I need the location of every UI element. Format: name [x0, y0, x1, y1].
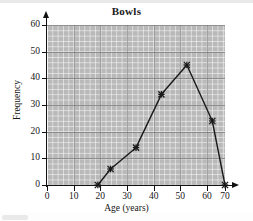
x-axis-arrow-icon — [232, 182, 239, 188]
y-tick-label-10: 10 — [14, 152, 40, 162]
gridline-x-20 — [100, 25, 101, 185]
y-axis-arrow-icon — [43, 11, 49, 18]
x-tick-label-40: 40 — [142, 191, 166, 201]
x-axis-title: Age (years) — [0, 203, 253, 213]
y-tick-60 — [42, 25, 47, 26]
y-tick-50 — [42, 52, 47, 53]
gridline-x-30 — [127, 25, 128, 185]
y-tick-40 — [42, 78, 47, 79]
y-axis-title: Frequency — [12, 55, 22, 145]
x-tick-label-20: 20 — [88, 191, 112, 201]
x-tick-label-10: 10 — [62, 191, 86, 201]
gridline-x-40 — [154, 25, 155, 185]
x-tick-label-30: 30 — [115, 191, 139, 201]
gridline-x-60 — [207, 25, 208, 185]
x-tick-label-70: 70 — [213, 191, 237, 201]
y-tick-10 — [42, 158, 47, 159]
y-tick-label-60: 60 — [14, 19, 40, 29]
x-tick-label-0: 0 — [35, 191, 59, 201]
y-tick-30 — [42, 105, 47, 106]
y-axis-line — [46, 17, 47, 187]
chart-figure: Bowls 60 50 40 30 20 10 0 0 — [0, 0, 253, 221]
gridline-x-50 — [180, 25, 181, 185]
y-tick-20 — [42, 132, 47, 133]
x-tick-label-50: 50 — [168, 191, 192, 201]
y-tick-label-0: 0 — [14, 179, 40, 189]
plot-area — [47, 25, 225, 185]
gridline-x-10 — [74, 25, 75, 185]
